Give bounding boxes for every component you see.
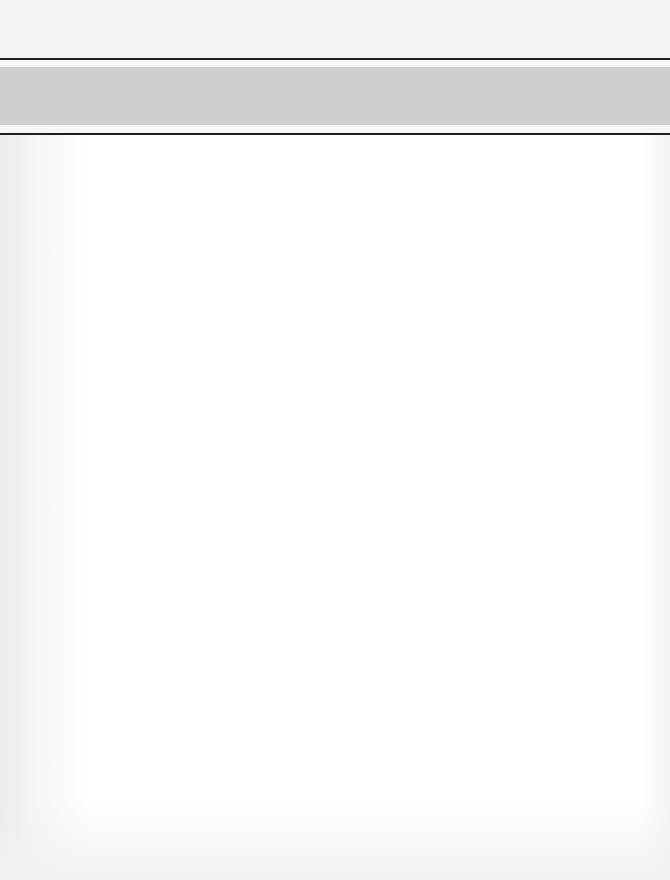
band-top-gap <box>0 60 670 67</box>
header-band <box>0 67 670 125</box>
page-bottom-shadow <box>0 800 670 880</box>
document-page <box>0 0 670 880</box>
page-body <box>0 135 670 880</box>
band-bottom-gap <box>0 125 670 133</box>
page-top-margin <box>0 0 670 58</box>
